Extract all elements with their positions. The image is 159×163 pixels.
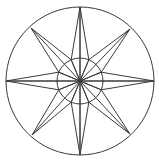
compass-rose-figure [0, 0, 159, 163]
compass-rose-svg [0, 0, 159, 163]
